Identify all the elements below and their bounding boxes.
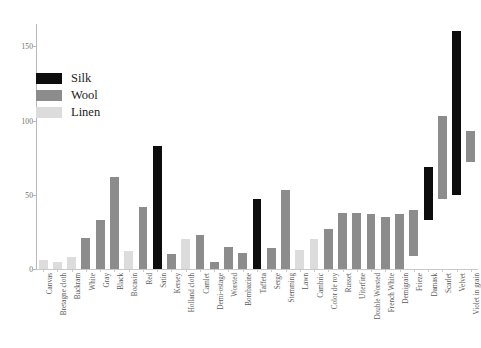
x-tick-label: Worsted (231, 273, 239, 297)
x-tick-label: Bocasin (131, 273, 139, 296)
x-tick-mark (257, 269, 258, 272)
x-tick-mark (371, 269, 372, 272)
x-tick-mark (171, 269, 172, 272)
x-tick-label: Uiterfine (359, 273, 367, 299)
x-tick-mark (86, 269, 87, 272)
bar (253, 199, 262, 269)
bar (181, 239, 190, 269)
bar (452, 31, 461, 194)
x-tick-label: Violet in grain (473, 273, 481, 315)
bar (39, 260, 48, 269)
x-tick-label: Damask (431, 273, 439, 297)
bar (409, 210, 418, 256)
x-tick-mark (228, 269, 229, 272)
x-tick-mark (143, 269, 144, 272)
x-tick-label: Buckram (74, 273, 82, 299)
bar (196, 235, 205, 269)
bar (310, 239, 319, 269)
y-tick-mark (33, 269, 36, 270)
x-tick-label: Canvas (46, 273, 54, 294)
x-tick-mark (414, 269, 415, 272)
bar (281, 190, 290, 269)
bar (395, 214, 404, 269)
y-tick-label: 50 (25, 190, 33, 199)
x-tick-label: Frieze (416, 273, 424, 291)
y-tick-mark (33, 46, 36, 47)
x-tick-label: Serge (274, 273, 282, 289)
bar (324, 229, 333, 269)
bar (466, 131, 475, 162)
x-tick-label: Demi-ostage (217, 273, 225, 310)
bar (352, 213, 361, 269)
x-tick-mark (357, 269, 358, 272)
x-tick-mark (157, 269, 158, 272)
x-tick-mark (471, 269, 472, 272)
bar (81, 238, 90, 269)
legend-swatch (36, 73, 62, 84)
bar (139, 207, 148, 269)
x-tick-mark (186, 269, 187, 272)
x-tick-label: Stemming (288, 273, 296, 303)
bar-chart: 050100150 CanvasBretagne clothBuckramWhi… (0, 0, 481, 348)
legend-label: Linen (71, 105, 100, 120)
bar (295, 250, 304, 269)
x-tick-mark (343, 269, 344, 272)
y-axis-labels: 050100150 (0, 0, 33, 348)
y-tick-label: 150 (21, 42, 33, 51)
x-tick-label: Scarlet (445, 273, 453, 293)
x-tick-label: Red (146, 273, 154, 285)
x-tick-label: Demigrain (402, 273, 410, 304)
legend-item: Silk (36, 70, 156, 87)
bar (381, 217, 390, 269)
bars-layer (36, 24, 478, 269)
x-tick-label: Gray (103, 273, 111, 287)
bar (438, 116, 447, 199)
bar (367, 214, 376, 269)
x-tick-mark (72, 269, 73, 272)
x-tick-mark (314, 269, 315, 272)
legend-swatch (36, 107, 62, 118)
bar (424, 167, 433, 220)
x-tick-mark (400, 269, 401, 272)
x-tick-mark (300, 269, 301, 272)
x-tick-mark (328, 269, 329, 272)
y-tick-mark (33, 121, 36, 122)
x-tick-label: Holland cloth (188, 273, 196, 312)
x-tick-label: Cambric (317, 273, 325, 298)
x-tick-label: French White (388, 273, 396, 312)
bar (53, 262, 62, 269)
bar (67, 257, 76, 269)
x-tick-mark (214, 269, 215, 272)
legend-item: Linen (36, 104, 156, 121)
x-tick-mark (457, 269, 458, 272)
x-tick-label: Satin (160, 273, 168, 288)
bar (153, 146, 162, 269)
x-tick-mark (385, 269, 386, 272)
x-tick-label: Velvet (459, 273, 467, 291)
chart-legend: SilkWoolLinen (36, 70, 156, 121)
x-tick-mark (114, 269, 115, 272)
bar (338, 213, 347, 269)
bar (110, 177, 119, 269)
x-tick-label: Color de roy (331, 273, 339, 309)
legend-swatch (36, 90, 62, 101)
x-tick-mark (57, 269, 58, 272)
x-tick-mark (442, 269, 443, 272)
x-tick-label: Bretagne cloth (60, 273, 68, 315)
x-tick-mark (286, 269, 287, 272)
x-tick-label: Camlet (203, 273, 211, 294)
bar (167, 254, 176, 269)
bar (124, 251, 133, 269)
x-tick-mark (100, 269, 101, 272)
y-tick-label: 100 (21, 116, 33, 125)
x-tick-label: Black (117, 273, 125, 290)
x-tick-mark (200, 269, 201, 272)
x-tick-mark (43, 269, 44, 272)
y-tick-mark (33, 195, 36, 196)
x-tick-mark (271, 269, 272, 272)
legend-item: Wool (36, 87, 156, 104)
legend-label: Silk (71, 71, 91, 86)
bar (238, 253, 247, 269)
x-tick-label: Taffeta (260, 273, 268, 293)
bar (224, 247, 233, 269)
